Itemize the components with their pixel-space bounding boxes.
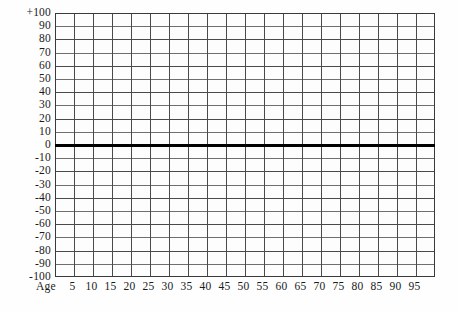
- y-axis-tick-label: -60: [0, 218, 51, 230]
- x-axis-tick-label: 40: [200, 280, 212, 293]
- x-axis-tick-label: 65: [295, 280, 307, 293]
- plot-area: [55, 13, 435, 277]
- y-axis-tick-label: -40: [0, 192, 51, 204]
- grid-svg: [55, 13, 435, 277]
- x-axis-tick-label: 15: [105, 280, 117, 293]
- x-axis-tick-label: 45: [219, 280, 231, 293]
- x-axis-tick-label: 75: [333, 280, 345, 293]
- x-axis-tick-label: 90: [390, 280, 402, 293]
- y-axis-tick-label: -80: [0, 245, 51, 257]
- y-axis-tick-labels: +1009080706050403020100-10-20-30-40-50-6…: [0, 13, 51, 277]
- x-axis-tick-label: 25: [143, 280, 155, 293]
- y-axis-tick-label: 90: [0, 20, 51, 32]
- y-axis-tick-label: +100: [0, 7, 51, 19]
- x-axis-tick-label: 80: [352, 280, 364, 293]
- x-axis-tick-label: 10: [86, 280, 98, 293]
- y-axis-tick-label: 20: [0, 113, 51, 125]
- y-axis-tick-label: -70: [0, 231, 51, 243]
- x-axis-tick-label: 85: [371, 280, 383, 293]
- x-axis-tick-label: 30: [162, 280, 174, 293]
- x-axis-tick-label: 55: [257, 280, 269, 293]
- x-axis-tick-label: 60: [276, 280, 288, 293]
- y-axis-tick-label: -20: [0, 165, 51, 177]
- x-axis-tick-label: 50: [238, 280, 250, 293]
- y-axis-tick-label: 80: [0, 33, 51, 45]
- y-axis-tick-label: 50: [0, 73, 51, 85]
- y-axis-tick-label: -10: [0, 152, 51, 164]
- y-axis-tick-label: 70: [0, 47, 51, 59]
- x-axis-tick-label: 35: [181, 280, 193, 293]
- y-axis-tick-label: -30: [0, 179, 51, 191]
- x-axis-tick-label: 5: [70, 280, 76, 293]
- x-axis-tick-label: 20: [124, 280, 136, 293]
- x-axis-tick-label: 70: [314, 280, 326, 293]
- y-axis-tick-label: 10: [0, 126, 51, 138]
- y-axis-tick-label: 40: [0, 86, 51, 98]
- y-axis-tick-label: 60: [0, 60, 51, 72]
- y-axis-tick-label: -50: [0, 205, 51, 217]
- y-axis-tick-label: 0: [0, 139, 51, 151]
- y-axis-tick-label: 30: [0, 99, 51, 111]
- x-axis-tick-labels: Age 510152025303540455055606570758085909…: [0, 280, 458, 300]
- x-axis-title: Age: [36, 280, 56, 293]
- x-axis-tick-label: 95: [409, 280, 421, 293]
- y-axis-tick-label: -90: [0, 258, 51, 270]
- blank-grid-chart: +1009080706050403020100-10-20-30-40-50-6…: [0, 0, 458, 311]
